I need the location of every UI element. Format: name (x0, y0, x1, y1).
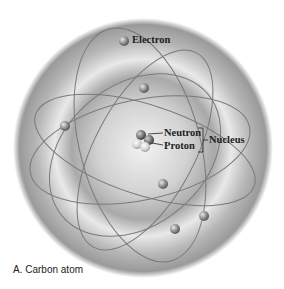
electron-icon (119, 36, 129, 46)
electron-icon (199, 211, 209, 221)
electron-icon (158, 179, 168, 189)
nucleus-label: Nucleus (209, 134, 245, 145)
electron-icon (170, 224, 180, 234)
neutron-label: Neutron (164, 127, 201, 138)
electron-icon (139, 83, 149, 93)
figure-caption: A. Carbon atom (13, 264, 83, 275)
electron-label: Electron (132, 34, 170, 45)
electron-icon (60, 121, 70, 131)
proton-label: Proton (164, 140, 195, 151)
